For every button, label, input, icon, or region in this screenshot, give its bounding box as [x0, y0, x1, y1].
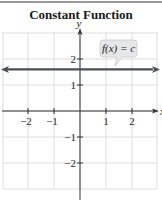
y-tick-label: −1: [64, 131, 76, 143]
x-tick-label: −2: [20, 115, 32, 127]
y-axis-label: y: [76, 17, 82, 29]
y-tick-label: 1: [71, 79, 77, 91]
x-axis-label: x: [159, 105, 162, 117]
y-tick-label: −2: [64, 157, 76, 169]
x-tick-label: 1: [103, 115, 109, 127]
x-tick-label: 2: [129, 115, 135, 127]
line-arrow-right-icon: [152, 66, 160, 73]
y-tick-label: 2: [71, 53, 77, 65]
callout-label: f(x) = c: [102, 42, 135, 55]
plot-area: xy −2−11221−1−2 f(x) = c: [0, 0, 162, 201]
x-tick-label: −1: [46, 115, 58, 127]
axes: xy: [2, 17, 162, 200]
